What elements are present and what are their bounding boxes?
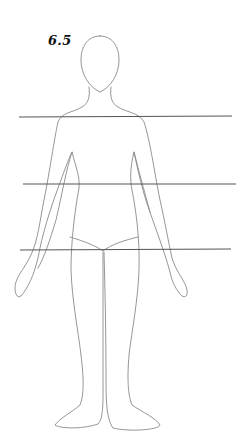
right-body-outline bbox=[104, 87, 187, 430]
figure-canvas: 6.5 bbox=[0, 0, 250, 446]
left-inner-arm bbox=[38, 152, 72, 268]
right-inner-arm bbox=[134, 152, 150, 212]
briefs-outline bbox=[70, 237, 138, 251]
shoulder-line bbox=[19, 116, 232, 117]
body-outline-drawing bbox=[0, 0, 250, 446]
head-outline bbox=[81, 36, 119, 92]
hip-line bbox=[20, 249, 231, 250]
left-body-outline bbox=[15, 87, 103, 428]
